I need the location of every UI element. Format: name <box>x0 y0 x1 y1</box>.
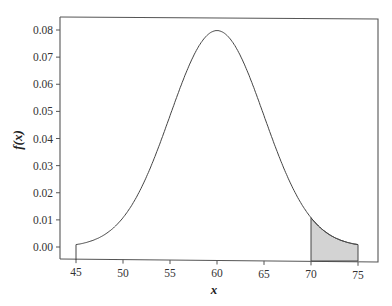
plot-frame <box>60 17 378 262</box>
x-tick-label: 60 <box>211 267 223 279</box>
y-tick-label: 0.06 <box>33 78 53 90</box>
x-tick-label: 55 <box>164 267 176 279</box>
y-tick-label: 0.05 <box>33 105 53 117</box>
x-axis: 45505560657075 <box>70 259 364 281</box>
x-tick-label: 50 <box>117 267 129 279</box>
y-tick-label: 0.01 <box>33 214 53 226</box>
y-tick-label: 0.02 <box>33 187 53 199</box>
x-tick-label: 70 <box>305 268 317 280</box>
x-tick-label: 45 <box>70 266 82 278</box>
shaded-tail-region <box>311 218 358 261</box>
y-tick-label: 0.00 <box>33 241 53 253</box>
x-tick-label: 65 <box>258 268 270 280</box>
y-axis-title: f(x) <box>10 130 25 150</box>
y-axis: 0.000.010.020.030.040.050.060.070.08 <box>33 24 60 253</box>
normal-density-chart: 45505560657075 0.000.010.020.030.040.050… <box>0 0 392 306</box>
y-tick-label: 0.07 <box>33 51 53 63</box>
y-tick-label: 0.04 <box>33 133 53 145</box>
x-axis-title: x <box>210 282 218 297</box>
x-tick-label: 75 <box>352 269 364 281</box>
y-tick-label: 0.08 <box>33 24 53 36</box>
y-tick-label: 0.03 <box>33 160 53 172</box>
